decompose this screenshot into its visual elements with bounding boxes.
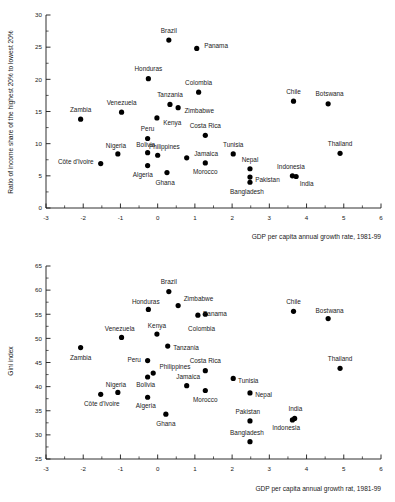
svg-text:30: 30 — [35, 431, 42, 438]
data-point-label: Brazil — [161, 278, 177, 285]
data-point-label: Peru — [141, 125, 155, 132]
data-point-label: Zambia — [70, 354, 92, 361]
point-labels-top: BrazilPanamaHondurasColombiaChileBotswan… — [58, 27, 353, 196]
data-point-label: Nepal — [255, 391, 272, 399]
data-point — [184, 155, 189, 160]
data-point — [203, 388, 208, 393]
data-point-label: Zimbabwe — [184, 107, 214, 114]
svg-text:15: 15 — [35, 108, 42, 115]
x-axis-title-bottom: GDP per capita annual growth rat, 1981-9… — [255, 485, 381, 493]
data-point — [166, 37, 171, 42]
data-point-label: Morocco — [193, 396, 218, 403]
data-point-label: Venezuela — [105, 325, 135, 332]
data-point-label: Pakistan — [255, 176, 280, 183]
data-point-label: Peru — [127, 356, 141, 363]
data-point — [145, 358, 150, 363]
data-point-label: Honduras — [132, 298, 160, 305]
svg-text:40: 40 — [35, 383, 42, 390]
point-labels-bottom: BrazilZimbabweHondurasChilePanamaBostwan… — [70, 278, 353, 437]
data-point-label: Côte d'Ivoire — [58, 158, 94, 165]
svg-text:60: 60 — [35, 286, 42, 293]
data-point-label: Honduras — [135, 65, 163, 72]
svg-text:5: 5 — [342, 465, 346, 472]
svg-text:-2: -2 — [80, 465, 86, 472]
data-point-label: India — [288, 405, 302, 412]
data-point — [176, 303, 181, 308]
svg-text:0: 0 — [39, 204, 43, 211]
y-axis-title-bottom: Gini index — [7, 346, 14, 376]
data-point-label: Tanzania — [173, 344, 199, 351]
income-ratio-scatter-svg: -3-2-10123456051015202530 BrazilPanamaHo… — [0, 0, 395, 251]
svg-text:30: 30 — [35, 11, 42, 18]
chart-panel-gini-index: -3-2-10123456253035404550556065 BrazilZi… — [0, 251, 395, 502]
data-point-label: Ghana — [156, 179, 176, 186]
svg-text:10: 10 — [35, 140, 42, 147]
data-point-label: Bangladesh — [230, 188, 264, 196]
svg-text:5: 5 — [39, 172, 43, 179]
data-point — [231, 151, 236, 156]
data-point — [155, 153, 160, 158]
svg-text:-1: -1 — [118, 214, 124, 221]
data-point — [196, 90, 201, 95]
data-point — [176, 105, 181, 110]
data-point — [167, 102, 172, 107]
data-point — [203, 133, 208, 138]
svg-text:50: 50 — [35, 335, 42, 342]
data-point — [115, 390, 120, 395]
data-point-label: Tunisia — [223, 141, 244, 148]
data-point — [247, 418, 252, 423]
svg-text:55: 55 — [35, 311, 42, 318]
data-point — [119, 110, 124, 115]
data-point — [166, 289, 171, 294]
svg-text:65: 65 — [35, 262, 42, 269]
gini-index-scatter-svg: -3-2-10123456253035404550556065 BrazilZi… — [0, 251, 395, 502]
data-point-label: Philippines — [160, 363, 191, 371]
data-point-label: Kenya — [163, 119, 182, 127]
svg-text:6: 6 — [379, 465, 383, 472]
data-point — [247, 390, 252, 395]
data-point — [247, 180, 252, 185]
data-point — [247, 439, 252, 444]
data-point — [203, 160, 208, 165]
data-point — [291, 309, 296, 314]
scatter-plot-figure: -3-2-10123456051015202530 BrazilPanamaHo… — [0, 0, 395, 502]
data-point-label: Botswana — [316, 90, 345, 97]
data-point-label: Venezuela — [107, 99, 137, 106]
data-point — [294, 174, 299, 179]
data-point — [194, 46, 199, 51]
svg-text:20: 20 — [35, 76, 42, 83]
data-point-label: Nigeria — [106, 381, 127, 389]
data-point-label: Zimbabwe — [184, 295, 214, 302]
data-point-label: Costa Rica — [190, 357, 222, 364]
data-point-label: Côte d'Ivoire — [84, 400, 120, 407]
data-point-label: Indonesia — [277, 163, 305, 170]
data-point — [247, 175, 252, 180]
svg-text:2: 2 — [230, 214, 234, 221]
data-point — [146, 76, 151, 81]
data-point — [195, 313, 200, 318]
data-point — [163, 412, 168, 417]
svg-text:45: 45 — [35, 359, 42, 366]
svg-text:3: 3 — [268, 214, 272, 221]
data-point — [337, 366, 342, 371]
svg-text:3: 3 — [268, 465, 272, 472]
data-point — [145, 163, 150, 168]
data-point-label: India — [300, 180, 314, 187]
data-point-label: Costa Rica — [190, 122, 222, 129]
data-point — [145, 395, 150, 400]
data-point-label: Nepal — [242, 156, 259, 164]
data-point — [119, 335, 124, 340]
svg-text:6: 6 — [379, 214, 383, 221]
data-point-label: Pakistan — [235, 408, 260, 415]
svg-text:0: 0 — [156, 214, 160, 221]
data-point-label: Morocco — [193, 168, 218, 175]
data-point-label: Indonesia — [272, 424, 300, 431]
data-point-label: Bostwana — [316, 307, 345, 314]
svg-text:-3: -3 — [43, 465, 49, 472]
data-point — [326, 101, 331, 106]
data-point — [247, 166, 252, 171]
data-point-label: Kenya — [148, 322, 167, 330]
svg-text:1: 1 — [193, 214, 197, 221]
data-point-label: Chile — [286, 298, 301, 305]
svg-text:25: 25 — [35, 455, 42, 462]
